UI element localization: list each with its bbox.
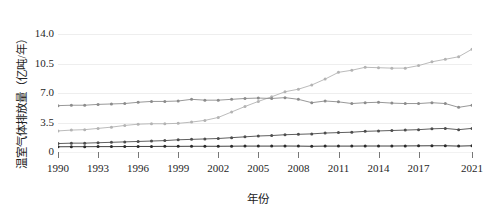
data-point [270,134,273,137]
x-tick-mark [258,152,259,158]
data-point [350,131,353,134]
data-point [404,129,407,132]
data-point [123,145,126,148]
x-tick-label: 1999 [167,162,189,174]
data-point [217,145,220,148]
data-point [110,141,113,144]
data-point [457,106,460,109]
y-axis-tick-labels: 03.57.010.514.0 [12,34,54,152]
data-point [377,66,380,69]
data-point [337,131,340,134]
data-point [430,127,433,130]
x-tick-mark [419,152,420,158]
data-point [70,145,73,148]
data-point [217,99,220,102]
data-point [243,105,246,108]
data-point [444,102,447,105]
x-tick-mark [339,152,340,158]
data-point [430,101,433,104]
data-point [217,137,220,140]
data-point [284,145,287,148]
data-point [364,130,367,133]
y-tick-label: 10.5 [18,57,54,69]
series-series-3 [58,127,472,145]
data-point [137,140,140,143]
data-point [377,145,380,148]
data-point [444,58,447,61]
data-point [390,129,393,132]
data-point [444,144,447,147]
data-point [404,144,407,147]
data-point [97,145,100,148]
data-point [310,145,313,148]
data-point [471,144,473,147]
data-point [190,98,193,101]
data-point [444,127,447,130]
data-point [430,60,433,63]
data-point [137,123,140,126]
data-point [377,101,380,104]
data-point [457,145,460,148]
data-point [471,127,473,130]
data-point [230,136,233,139]
data-point [377,129,380,132]
data-point [70,104,73,107]
data-point [150,122,153,125]
data-point [324,145,327,148]
data-point [150,145,153,148]
data-point [390,67,393,70]
data-point [257,145,260,148]
x-axis-tick-labels: 1990199319961999200220052008201120142017… [0,162,489,178]
x-tick-label: 2021 [461,162,483,174]
y-tick-label: 0 [18,145,54,157]
x-tick-label: 2005 [247,162,269,174]
data-point [230,98,233,101]
data-point [364,101,367,104]
data-point [297,98,300,101]
data-point [324,100,327,103]
data-point [284,90,287,93]
data-point [58,142,60,145]
data-point [97,141,100,144]
data-point [83,142,86,145]
data-point [190,138,193,141]
data-point [471,104,473,107]
data-point [270,145,273,148]
series-line [58,146,472,147]
data-point [404,102,407,105]
data-point [297,88,300,91]
data-point [58,129,60,132]
data-point [110,102,113,105]
data-point [203,137,206,140]
data-point [257,100,260,103]
x-axis-tick-marks [58,152,472,162]
data-point [417,64,420,67]
data-point [110,145,113,148]
plot-area [58,34,472,152]
series-series-1 [58,48,472,133]
data-point [177,138,180,141]
data-point [83,145,86,148]
data-point [97,103,100,106]
data-point [310,101,313,104]
data-point [350,102,353,105]
x-tick-mark [218,152,219,158]
data-point [203,99,206,102]
data-point [390,145,393,148]
series-line [58,49,472,131]
data-point [203,145,206,148]
data-point [163,145,166,148]
y-tick-label: 14.0 [18,27,54,39]
data-point [257,97,260,100]
chart-figure: 温室气体排放量（亿吨/年） 03.57.010.514.0 1990199319… [0,0,489,216]
data-point [324,78,327,81]
x-tick-label: 2014 [368,162,390,174]
data-point [417,128,420,131]
data-point [137,101,140,104]
data-point [83,104,86,107]
data-point [203,119,206,122]
data-point [284,133,287,136]
data-point [457,55,460,58]
x-tick-label: 2017 [408,162,430,174]
data-point [230,145,233,148]
